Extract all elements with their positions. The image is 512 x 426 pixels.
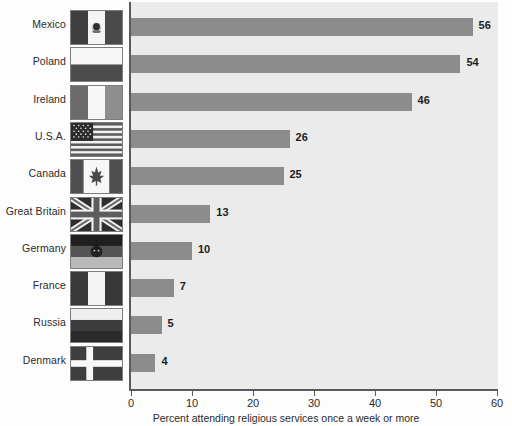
flag-great-britain-icon: [70, 197, 123, 232]
chart-row: Russia 5: [0, 307, 512, 344]
x-tick: [192, 391, 193, 396]
country-label: Russia: [0, 316, 66, 328]
x-axis-title-text: Percent attending religious services onc…: [153, 412, 420, 424]
chart-row: Canada 25: [0, 158, 512, 195]
chart-row: U.S.A. 26: [0, 121, 512, 158]
flag-denmark-icon: [70, 346, 123, 381]
country-label: Ireland: [0, 93, 66, 105]
flag-usa-icon: [70, 122, 123, 157]
x-tick: [131, 391, 132, 396]
x-tick: [375, 391, 376, 396]
bar-chart: Mexico 56Poland 54Ireland 46U.S.A.: [0, 0, 512, 426]
x-tick-label: 50: [430, 397, 442, 409]
flag-russia-icon: [70, 308, 123, 343]
x-tick: [497, 391, 498, 396]
country-label: Denmark: [0, 354, 66, 366]
x-tick-label: 30: [308, 397, 320, 409]
bar: [131, 55, 460, 73]
flag-poland-icon: [70, 47, 123, 82]
chart-row: Denmark 4: [0, 345, 512, 382]
bar-value-label: 25: [290, 168, 302, 180]
bar-value-label: 54: [466, 56, 478, 68]
x-tick-label: 20: [247, 397, 259, 409]
bar: [131, 93, 412, 111]
bar-value-label: 4: [161, 355, 167, 367]
x-tick-label: 40: [369, 397, 381, 409]
flag-france-icon: [70, 271, 123, 306]
bar-value-label: 7: [180, 280, 186, 292]
bar-value-label: 13: [216, 206, 228, 218]
country-label: Great Britain: [0, 205, 66, 217]
flag-mexico-icon: [70, 10, 123, 45]
x-tick-label: 60: [491, 397, 503, 409]
x-tick: [253, 391, 254, 396]
country-label: Poland: [0, 55, 66, 67]
country-label: Germany: [0, 242, 66, 254]
x-tick-label: 10: [186, 397, 198, 409]
x-tick: [314, 391, 315, 396]
x-tick: [436, 391, 437, 396]
country-label: France: [0, 279, 66, 291]
chart-row: Mexico 56: [0, 9, 512, 46]
chart-row: Poland 54: [0, 46, 512, 83]
country-label: Mexico: [0, 18, 66, 30]
bar: [131, 205, 210, 223]
bar: [131, 167, 284, 185]
bar-value-label: 5: [168, 317, 174, 329]
flag-canada-icon: [70, 159, 123, 194]
chart-row: Ireland 46: [0, 84, 512, 121]
bar: [131, 242, 192, 260]
bar: [131, 354, 155, 372]
country-label: U.S.A.: [0, 130, 66, 142]
bar: [131, 316, 162, 334]
bar: [131, 130, 290, 148]
chart-row: Germany 10: [0, 233, 512, 270]
bar: [131, 279, 174, 297]
x-tick-label: 0: [128, 397, 134, 409]
bar-value-label: 26: [296, 131, 308, 143]
x-axis-title: Percent attending religious services onc…: [0, 412, 512, 424]
flag-germany-icon: [70, 234, 123, 269]
bar-value-label: 56: [479, 19, 491, 31]
chart-row: Great Britain 13: [0, 196, 512, 233]
bar-value-label: 10: [198, 243, 210, 255]
bar-value-label: 46: [418, 94, 430, 106]
chart-row: France 7: [0, 270, 512, 307]
country-label: Canada: [0, 167, 66, 179]
bar: [131, 18, 473, 36]
flag-ireland-icon: [70, 85, 123, 120]
